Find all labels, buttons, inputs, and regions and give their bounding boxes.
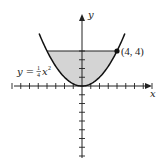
svg-text:4: 4 bbox=[37, 72, 40, 78]
y-axis-label: y bbox=[87, 9, 94, 20]
svg-text:2: 2 bbox=[48, 65, 51, 71]
svg-text:1: 1 bbox=[37, 65, 40, 71]
svg-text:y =: y = bbox=[16, 66, 34, 77]
point-4-4 bbox=[114, 48, 119, 53]
point-label: (4, 4) bbox=[121, 46, 144, 58]
y-axis-arrow-icon bbox=[79, 14, 85, 21]
x-axis-label: x bbox=[150, 88, 156, 99]
parabola-chart: (4, 4) y x y = 1 4 x 2 bbox=[0, 0, 163, 166]
equation-label: y = 1 4 x 2 bbox=[16, 65, 51, 78]
